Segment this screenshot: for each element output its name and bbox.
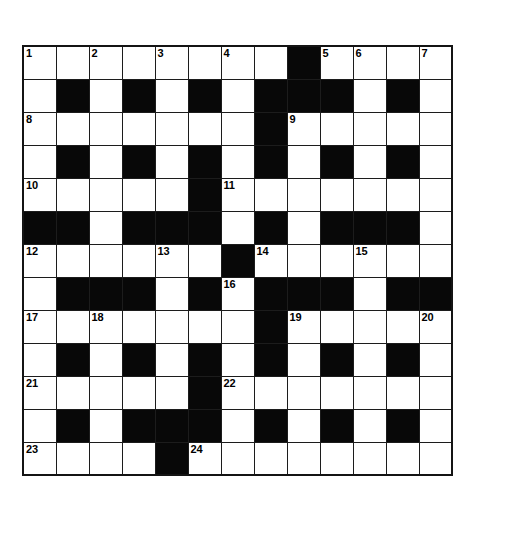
crossword-cell-open[interactable] xyxy=(254,46,287,79)
crossword-cell-open[interactable] xyxy=(320,442,353,475)
crossword-cell-open[interactable] xyxy=(386,376,419,409)
crossword-cell-open[interactable] xyxy=(89,376,122,409)
crossword-cell-open[interactable] xyxy=(353,112,386,145)
crossword-cell-open[interactable] xyxy=(155,178,188,211)
crossword-cell-open[interactable] xyxy=(155,277,188,310)
crossword-cell-open[interactable]: 8 xyxy=(23,112,56,145)
crossword-cell-open[interactable] xyxy=(155,343,188,376)
crossword-cell-open[interactable]: 6 xyxy=(353,46,386,79)
crossword-cell-open[interactable]: 12 xyxy=(23,244,56,277)
crossword-cell-open[interactable]: 7 xyxy=(419,46,452,79)
crossword-cell-open[interactable] xyxy=(23,79,56,112)
crossword-cell-open[interactable] xyxy=(254,376,287,409)
crossword-cell-open[interactable] xyxy=(320,244,353,277)
crossword-cell-open[interactable] xyxy=(419,376,452,409)
crossword-cell-open[interactable] xyxy=(254,442,287,475)
crossword-cell-open[interactable] xyxy=(386,46,419,79)
crossword-cell-open[interactable] xyxy=(122,46,155,79)
crossword-cell-open[interactable] xyxy=(287,442,320,475)
crossword-cell-open[interactable] xyxy=(155,79,188,112)
crossword-cell-open[interactable] xyxy=(188,244,221,277)
crossword-cell-open[interactable] xyxy=(89,244,122,277)
crossword-cell-open[interactable] xyxy=(56,442,89,475)
crossword-cell-open[interactable] xyxy=(419,211,452,244)
crossword-cell-open[interactable] xyxy=(56,112,89,145)
crossword-cell-open[interactable]: 18 xyxy=(89,310,122,343)
crossword-cell-open[interactable] xyxy=(89,178,122,211)
crossword-cell-open[interactable] xyxy=(89,442,122,475)
crossword-cell-open[interactable]: 21 xyxy=(23,376,56,409)
crossword-cell-open[interactable]: 14 xyxy=(254,244,287,277)
crossword-cell-open[interactable] xyxy=(419,178,452,211)
crossword-cell-open[interactable] xyxy=(386,244,419,277)
crossword-cell-open[interactable] xyxy=(56,310,89,343)
crossword-cell-open[interactable]: 11 xyxy=(221,178,254,211)
crossword-cell-open[interactable] xyxy=(56,178,89,211)
crossword-cell-open[interactable] xyxy=(155,376,188,409)
crossword-cell-open[interactable]: 10 xyxy=(23,178,56,211)
crossword-cell-open[interactable] xyxy=(221,442,254,475)
crossword-cell-open[interactable] xyxy=(122,376,155,409)
crossword-cell-open[interactable] xyxy=(419,343,452,376)
crossword-cell-open[interactable] xyxy=(122,178,155,211)
crossword-cell-open[interactable] xyxy=(155,145,188,178)
crossword-cell-open[interactable] xyxy=(221,79,254,112)
crossword-cell-open[interactable] xyxy=(419,409,452,442)
crossword-cell-open[interactable] xyxy=(23,277,56,310)
crossword-cell-open[interactable]: 13 xyxy=(155,244,188,277)
crossword-cell-open[interactable]: 1 xyxy=(23,46,56,79)
crossword-cell-open[interactable] xyxy=(23,145,56,178)
crossword-cell-open[interactable] xyxy=(188,112,221,145)
crossword-cell-open[interactable] xyxy=(386,178,419,211)
crossword-cell-open[interactable] xyxy=(320,310,353,343)
crossword-cell-open[interactable] xyxy=(254,178,287,211)
crossword-cell-open[interactable] xyxy=(353,178,386,211)
crossword-cell-open[interactable] xyxy=(320,112,353,145)
crossword-cell-open[interactable] xyxy=(419,145,452,178)
crossword-cell-open[interactable] xyxy=(320,178,353,211)
crossword-cell-open[interactable] xyxy=(122,112,155,145)
crossword-cell-open[interactable] xyxy=(353,277,386,310)
crossword-cell-open[interactable] xyxy=(386,112,419,145)
crossword-cell-open[interactable] xyxy=(353,343,386,376)
crossword-cell-open[interactable]: 4 xyxy=(221,46,254,79)
crossword-cell-open[interactable] xyxy=(353,79,386,112)
crossword-cell-open[interactable] xyxy=(89,79,122,112)
crossword-cell-open[interactable] xyxy=(122,442,155,475)
crossword-cell-open[interactable]: 16 xyxy=(221,277,254,310)
crossword-cell-open[interactable]: 9 xyxy=(287,112,320,145)
crossword-cell-open[interactable] xyxy=(155,310,188,343)
crossword-cell-open[interactable] xyxy=(188,310,221,343)
crossword-cell-open[interactable] xyxy=(287,343,320,376)
crossword-cell-open[interactable]: 2 xyxy=(89,46,122,79)
crossword-cell-open[interactable] xyxy=(287,244,320,277)
crossword-cell-open[interactable] xyxy=(353,409,386,442)
crossword-cell-open[interactable]: 3 xyxy=(155,46,188,79)
crossword-cell-open[interactable] xyxy=(89,409,122,442)
crossword-cell-open[interactable]: 15 xyxy=(353,244,386,277)
crossword-cell-open[interactable] xyxy=(353,376,386,409)
crossword-cell-open[interactable] xyxy=(353,145,386,178)
crossword-cell-open[interactable]: 24 xyxy=(188,442,221,475)
crossword-cell-open[interactable] xyxy=(287,409,320,442)
crossword-cell-open[interactable] xyxy=(221,343,254,376)
crossword-cell-open[interactable] xyxy=(23,409,56,442)
crossword-cell-open[interactable] xyxy=(188,46,221,79)
crossword-cell-open[interactable]: 20 xyxy=(419,310,452,343)
crossword-cell-open[interactable] xyxy=(386,310,419,343)
crossword-cell-open[interactable] xyxy=(287,178,320,211)
crossword-cell-open[interactable] xyxy=(287,211,320,244)
crossword-cell-open[interactable]: 17 xyxy=(23,310,56,343)
crossword-cell-open[interactable] xyxy=(56,46,89,79)
crossword-cell-open[interactable] xyxy=(221,310,254,343)
crossword-cell-open[interactable]: 22 xyxy=(221,376,254,409)
crossword-cell-open[interactable] xyxy=(353,442,386,475)
crossword-cell-open[interactable] xyxy=(419,244,452,277)
crossword-cell-open[interactable] xyxy=(221,409,254,442)
crossword-cell-open[interactable] xyxy=(419,79,452,112)
crossword-grid[interactable]: 123456789101112131415161718192021222324 xyxy=(22,45,453,476)
crossword-cell-open[interactable] xyxy=(56,244,89,277)
crossword-cell-open[interactable] xyxy=(23,343,56,376)
crossword-cell-open[interactable] xyxy=(221,112,254,145)
crossword-cell-open[interactable] xyxy=(221,145,254,178)
